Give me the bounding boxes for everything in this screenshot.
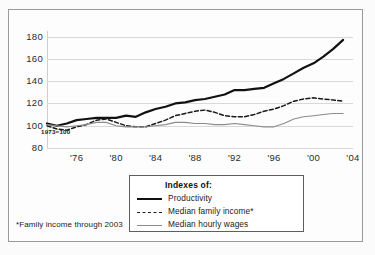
legend-label: Median hourly wages <box>168 219 248 229</box>
series-line <box>47 40 343 126</box>
series-line <box>47 113 343 126</box>
legend-title: Indexes of: <box>165 180 212 190</box>
legend-box: Indexes of: ProductivityMedian family in… <box>129 175 304 232</box>
legend-label: Productivity <box>168 193 212 203</box>
figure-container: 80100120140160180 '76'80'84'88'92'96'00'… <box>0 0 375 255</box>
legend-swatch <box>137 225 162 226</box>
legend-item: Productivity <box>136 193 304 206</box>
legend-swatch <box>137 212 162 213</box>
legend-item: Median family income* <box>136 206 304 219</box>
legend-label: Median family income* <box>168 206 254 216</box>
series-line <box>47 98 343 130</box>
legend-item: Median hourly wages <box>136 219 304 232</box>
chart-footnote: *Family income through 2003 <box>16 220 123 229</box>
legend-swatch <box>137 198 162 200</box>
